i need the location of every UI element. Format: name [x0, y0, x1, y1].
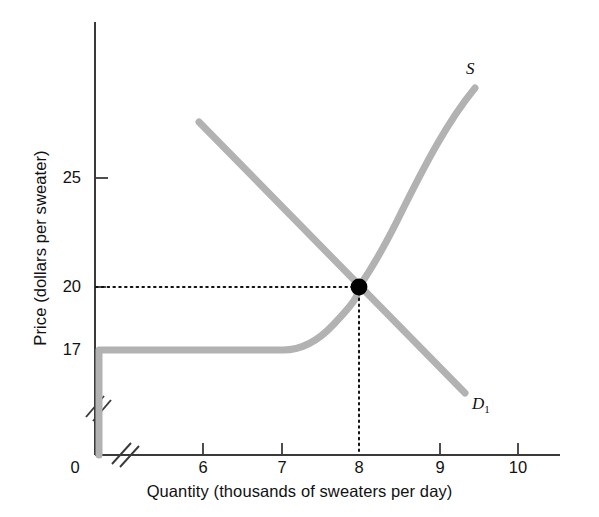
x-tick-label-10: 10: [503, 458, 533, 477]
x-tick-label-8: 8: [344, 458, 374, 477]
equilibrium-point-marker: [351, 279, 368, 296]
x-tick-label-6: 6: [188, 458, 218, 477]
x-tick-label-7: 7: [267, 458, 297, 477]
demand-label-subscript: 1: [484, 403, 490, 415]
y-axis-title: Price (dollars per sweater): [31, 28, 50, 468]
supply-curve-line: [99, 88, 475, 455]
chart-plot-area: [0, 0, 599, 517]
demand-curve-label: D1: [472, 394, 490, 415]
origin-label: 0: [60, 458, 90, 477]
supply-demand-chart: S D1 25 20 17 0 6 7 8 9 10 Quantity (tho…: [0, 0, 599, 517]
supply-curve: [99, 287, 380, 455]
supply-curve-label: S: [466, 59, 475, 79]
x-tick-label-9: 9: [425, 458, 455, 477]
x-axis-title: Quantity (thousands of sweaters per day): [0, 482, 599, 501]
